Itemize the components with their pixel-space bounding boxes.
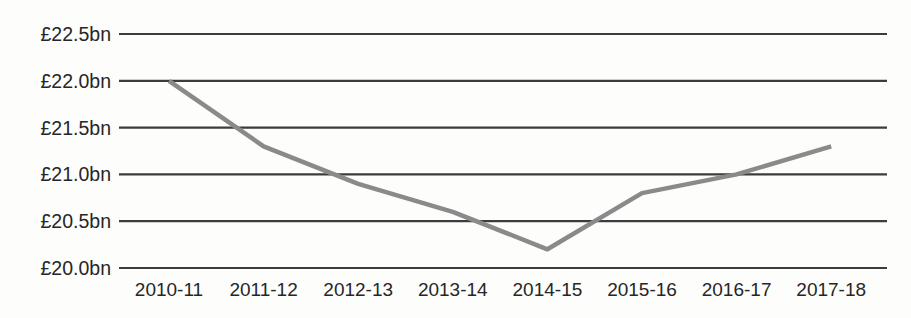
x-axis-tick-label: 2017-18 <box>796 279 866 300</box>
x-axis-tick-label: 2016-17 <box>702 279 772 300</box>
x-axis-tick-label: 2011-12 <box>229 279 297 300</box>
x-axis-tick-label: 2012-13 <box>323 279 393 300</box>
y-axis-tick-label: £22.0bn <box>41 70 112 92</box>
line-chart: £22.5bn£22.0bn£21.5bn£21.0bn£20.5bn£20.0… <box>0 0 911 318</box>
y-axis-tick-label: £22.5bn <box>41 23 112 45</box>
x-axis-tick-label: 2013-14 <box>418 279 488 300</box>
x-axis-tick-label: 2010-11 <box>135 279 203 300</box>
y-axis-tick-label: £21.0bn <box>41 163 112 185</box>
x-axis-tick-label: 2014-15 <box>513 279 583 300</box>
y-axis-tick-label: £20.0bn <box>41 257 112 279</box>
data-series-line <box>169 81 831 250</box>
y-axis-tick-label: £20.5bn <box>41 210 112 232</box>
y-axis-tick-label: £21.5bn <box>41 117 112 139</box>
x-axis-tick-label: 2015-16 <box>607 279 677 300</box>
chart-canvas: £22.5bn£22.0bn£21.5bn£21.0bn£20.5bn£20.0… <box>0 0 911 318</box>
